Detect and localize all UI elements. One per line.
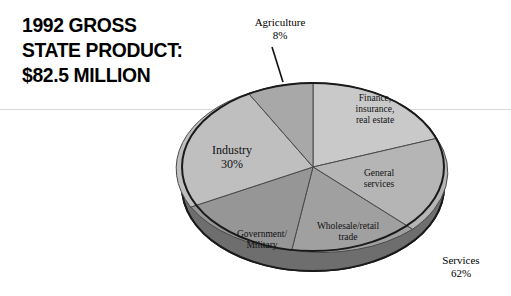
pie-label-general-services-line-1: General <box>344 168 414 179</box>
pie-label-government-line-2: Military <box>215 240 309 251</box>
agriculture-leader-line <box>272 47 283 82</box>
pie-label-finance: Finance, insurance, real estate <box>333 93 417 126</box>
pie-label-finance-line-2: insurance, <box>333 104 417 115</box>
pie-label-agriculture-value: 8% <box>232 29 328 42</box>
pie-label-industry-name: Industry <box>184 143 280 157</box>
pie-label-general-services: General services <box>344 168 414 190</box>
pie-label-wholesale-retail-trade: Wholesale/retail trade <box>300 221 396 243</box>
pie-label-services-name: Services <box>423 254 499 267</box>
pie-label-agriculture: Agriculture 8% <box>232 16 328 42</box>
pie-label-finance-line-3: real estate <box>333 115 417 126</box>
chart-figure: 1992 GROSS STATE PRODUCT: $82.5 MILLION <box>0 0 511 296</box>
pie-label-government-military: Government/ Military <box>215 229 309 251</box>
pie-label-wholesale-line-2: trade <box>300 232 396 243</box>
pie-label-government-line-1: Government/ <box>215 229 309 240</box>
pie-chart: Agriculture 8% Finance, insurance, real … <box>0 0 511 296</box>
pie-label-finance-line-1: Finance, <box>333 93 417 104</box>
pie-label-general-services-line-2: services <box>344 179 414 190</box>
pie-label-services-value: 62% <box>423 267 499 280</box>
pie-label-services: Services 62% <box>423 254 499 280</box>
pie-label-industry-value: 30% <box>184 157 280 171</box>
pie-label-agriculture-name: Agriculture <box>232 16 328 29</box>
pie-label-wholesale-line-1: Wholesale/retail <box>300 221 396 232</box>
pie-label-industry: Industry 30% <box>184 143 280 171</box>
